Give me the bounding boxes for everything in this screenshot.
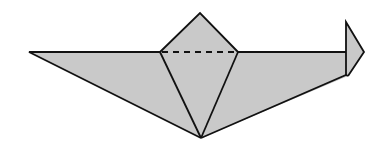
- diagram-container: [0, 0, 387, 142]
- origami-diagram: [0, 0, 387, 142]
- main-body-shape: [29, 13, 364, 138]
